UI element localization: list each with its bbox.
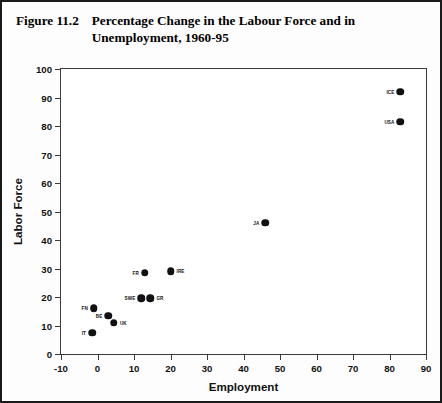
data-point <box>90 305 98 313</box>
y-axis-tick <box>55 326 61 327</box>
data-point-label: JA <box>253 220 259 225</box>
figure-number: Figure 11.2 <box>16 12 92 29</box>
data-point-label: SWE <box>125 296 136 301</box>
figure-title: Percentage Change in the Labour Force an… <box>92 12 430 46</box>
y-axis-tick <box>55 98 61 99</box>
x-axis-tick-label: 40 <box>238 363 249 374</box>
figure-container: Figure 11.2 Percentage Change in the Lab… <box>0 0 442 403</box>
y-axis-tick-label: 100 <box>36 64 52 75</box>
x-axis-tick <box>61 354 62 360</box>
x-axis-tick <box>244 354 245 360</box>
data-point <box>110 319 118 327</box>
data-point-label: UK <box>120 320 127 325</box>
y-axis-tick-label: 80 <box>41 121 52 132</box>
data-point <box>397 118 405 126</box>
data-point <box>397 88 405 96</box>
x-axis-tick-label: 60 <box>311 363 322 374</box>
data-point-label: USA <box>384 119 394 124</box>
y-axis-tick <box>55 212 61 213</box>
y-axis-tick <box>55 155 61 156</box>
data-point <box>262 219 270 227</box>
y-axis-tick-label: 60 <box>41 178 52 189</box>
data-point-label: IRE <box>177 269 185 274</box>
y-axis-tick <box>55 269 61 270</box>
data-layer: ITFNUKBESWEGRFRIREJAUSAICE <box>61 69 426 354</box>
y-axis-tick <box>55 240 61 241</box>
data-point <box>147 295 155 303</box>
y-axis-title: Labor Force <box>8 68 26 355</box>
y-axis-tick <box>55 297 61 298</box>
x-axis-tick <box>426 354 427 360</box>
x-axis-tick <box>171 354 172 360</box>
y-axis-tick-label: 10 <box>41 320 52 331</box>
x-axis-tick-label: 50 <box>275 363 286 374</box>
y-axis-tick-label: 40 <box>41 235 52 246</box>
data-point-label: IT <box>82 330 86 335</box>
data-point <box>167 268 175 276</box>
y-axis-tick-label: 20 <box>41 292 52 303</box>
y-axis-tick <box>55 126 61 127</box>
y-axis-tick-label: 90 <box>41 92 52 103</box>
data-point-label: ICE <box>386 89 394 94</box>
data-point-label: BE <box>96 313 103 318</box>
y-axis-tick <box>55 69 61 70</box>
x-axis-tick-label: 10 <box>129 363 140 374</box>
x-axis-tick <box>207 354 208 360</box>
x-axis-tick <box>134 354 135 360</box>
data-point-label: FN <box>82 306 88 311</box>
x-axis-tick-label: -10 <box>54 363 68 374</box>
y-axis-tick-label: 50 <box>41 206 52 217</box>
x-axis-tick-label: 70 <box>348 363 359 374</box>
data-point <box>141 269 149 277</box>
x-axis-tick-label: 90 <box>421 363 432 374</box>
y-axis-tick-label: 70 <box>41 149 52 160</box>
x-axis-tick-label: 80 <box>384 363 395 374</box>
x-axis-tick-label: 0 <box>95 363 100 374</box>
x-axis-tick <box>390 354 391 360</box>
x-axis-tick <box>280 354 281 360</box>
data-point-label: GR <box>156 296 163 301</box>
y-axis-tick-label: 30 <box>41 263 52 274</box>
y-axis-title-text: Labor Force <box>11 178 24 245</box>
data-point <box>105 312 113 320</box>
data-point <box>88 329 96 337</box>
figure-caption: Figure 11.2 Percentage Change in the Lab… <box>16 12 430 46</box>
data-point-label: FR <box>133 270 139 275</box>
y-axis-tick <box>55 183 61 184</box>
x-axis-tick <box>317 354 318 360</box>
plot-area: ITFNUKBESWEGRFRIREJAUSAICE 0102030405060… <box>60 68 427 355</box>
x-axis-tick <box>98 354 99 360</box>
x-axis-tick-label: 20 <box>165 363 176 374</box>
x-axis-tick <box>353 354 354 360</box>
data-point <box>138 295 146 303</box>
x-axis-tick-label: 30 <box>202 363 213 374</box>
y-axis-tick-label: 0 <box>47 349 52 360</box>
x-axis-title: Employment <box>60 380 427 393</box>
